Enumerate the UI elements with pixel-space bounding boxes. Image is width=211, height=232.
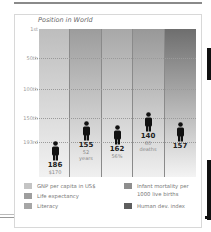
legend-item-human-dev: Human dev. index bbox=[124, 203, 185, 209]
person-icon bbox=[176, 122, 185, 142]
figure-life-expectancy: 155 52 years bbox=[71, 121, 101, 161]
legend-label-line2: 1000 live births bbox=[137, 190, 189, 198]
legend-label: Human dev. index bbox=[137, 203, 185, 209]
legend-item-infant-mortality: Infant mortality per 1000 live births bbox=[124, 183, 189, 198]
value-label: $170 bbox=[49, 169, 62, 175]
gridline-50th bbox=[35, 58, 196, 59]
person-icon bbox=[144, 112, 153, 132]
gridline-150th bbox=[35, 118, 196, 119]
chart-title: Position in World bbox=[38, 16, 93, 24]
person-icon bbox=[51, 141, 60, 161]
edge-bar bbox=[207, 48, 211, 80]
legend-label-group: Infant mortality per 1000 live births bbox=[137, 182, 189, 198]
legend-swatch bbox=[24, 193, 32, 199]
edge-bar bbox=[207, 160, 211, 220]
legend-label: Infant mortality per bbox=[137, 182, 189, 190]
ytick-150th: 150th bbox=[14, 115, 38, 121]
legend-item-life-expectancy: Life expectancy bbox=[24, 193, 79, 199]
figure-gnp: 186 $170 bbox=[40, 141, 70, 175]
figure-infant-mortality: 140 60 deaths bbox=[133, 112, 163, 152]
ytick-1st: 1st bbox=[14, 26, 38, 32]
legend-item-gnp: GNP per capita in US$ bbox=[24, 183, 96, 189]
unit-label: years bbox=[79, 155, 93, 161]
ytick-193rd: 193rd bbox=[14, 139, 38, 145]
ytick-50th: 50th bbox=[14, 55, 38, 61]
figure-literacy: 162 56% bbox=[102, 125, 132, 159]
gridline-100th bbox=[35, 89, 196, 90]
unit-label: deaths bbox=[139, 146, 156, 152]
rank-value: 155 bbox=[79, 142, 94, 149]
legend-swatch bbox=[124, 203, 132, 209]
figure-human-dev: 157 bbox=[165, 122, 195, 150]
column-human-dev bbox=[165, 29, 196, 177]
rank-value: 186 bbox=[48, 162, 63, 169]
column-infant-mortality bbox=[133, 29, 165, 177]
legend-swatch bbox=[124, 183, 132, 189]
person-icon bbox=[82, 121, 91, 141]
legend-label: Literacy bbox=[37, 203, 58, 209]
ytick-100th: 100th bbox=[14, 86, 38, 92]
rank-value: 140 bbox=[141, 133, 156, 140]
rank-value: 162 bbox=[110, 146, 125, 153]
value-label: 56% bbox=[111, 153, 122, 159]
top-rule bbox=[14, 2, 202, 4]
legend-swatch bbox=[24, 203, 32, 209]
rank-value: 157 bbox=[173, 143, 188, 150]
person-icon bbox=[113, 125, 122, 145]
legend-swatch bbox=[24, 183, 32, 189]
legend-label: Life expectancy bbox=[37, 193, 79, 199]
legend-item-literacy: Literacy bbox=[24, 203, 58, 209]
legend-label: GNP per capita in US$ bbox=[37, 183, 96, 189]
edge-tick bbox=[205, 216, 211, 219]
